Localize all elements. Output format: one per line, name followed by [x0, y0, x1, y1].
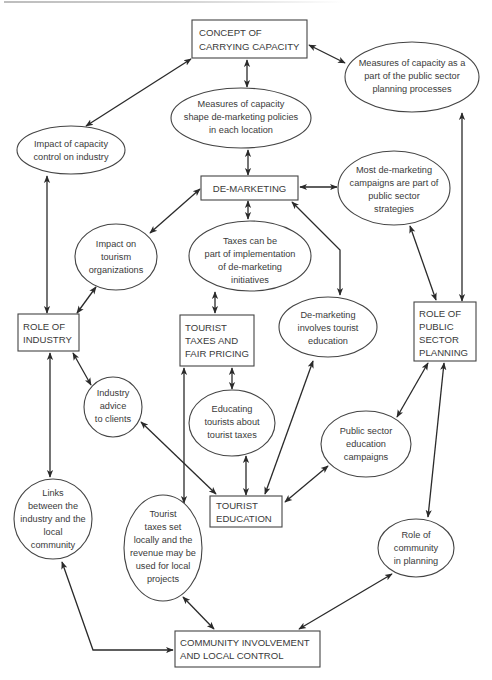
edge-role-industry-industry-advice [73, 353, 91, 385]
svg-text:shape de-marketing policies: shape de-marketing policies [184, 112, 299, 122]
svg-text:planning processes: planning processes [372, 84, 452, 94]
svg-text:SECTOR: SECTOR [419, 334, 459, 345]
svg-text:COMMUNITY INVOLVEMENT: COMMUNITY INVOLVEMENT [180, 637, 310, 648]
edge-role-public-public-education [397, 363, 428, 417]
svg-text:AND LOCAL CONTROL: AND LOCAL CONTROL [180, 650, 284, 661]
edge-role-public-role-community [428, 363, 444, 517]
svg-text:public sector: public sector [368, 191, 420, 201]
svg-text:in each location: in each location [209, 125, 273, 135]
svg-text:FAIR PRICING: FAIR PRICING [185, 348, 249, 359]
svg-text:PLANNING: PLANNING [419, 347, 468, 358]
svg-text:Measures of capacity: Measures of capacity [198, 99, 285, 109]
node-links-industry-community: Links between the industry and the local… [14, 479, 92, 559]
edge-taxes-locally-community [183, 597, 214, 629]
svg-text:Educating: Educating [212, 404, 253, 414]
svg-text:Links: Links [42, 488, 64, 498]
node-impact-capacity-control: Impact of capacity control on industry [17, 126, 125, 174]
svg-text:CONCEPT OF: CONCEPT OF [199, 27, 262, 38]
svg-text:in planning: in planning [394, 556, 438, 566]
svg-text:Tourist: Tourist [149, 509, 177, 519]
svg-text:part of implementation: part of implementation [205, 249, 296, 259]
node-demarketing-involves-education: De-marketing involves tourist education [279, 297, 377, 357]
svg-text:INDUSTRY: INDUSTRY [23, 334, 72, 345]
node-measures-capacity-shape-demarketing: Measures of capacity shape de-marketing … [171, 88, 311, 148]
node-tourist-education: TOURIST EDUCATION [210, 496, 282, 527]
node-tourist-taxes-fair-pricing: TOURIST TAXES AND FAIR PRICING [180, 315, 254, 366]
node-role-of-community-planning: Role of community in planning [378, 519, 454, 577]
svg-text:industry and the: industry and the [20, 514, 85, 524]
svg-text:CARRYING CAPACITY: CARRYING CAPACITY [199, 41, 300, 52]
edge-public-education-tourist-education [285, 466, 328, 502]
node-most-demarketing-campaigns: Most de-marketing campaigns are part of … [338, 151, 450, 225]
node-tourist-taxes-set-locally: Tourist taxes set locally and the revenu… [124, 495, 202, 601]
svg-text:tourist taxes: tourist taxes [207, 430, 257, 440]
svg-text:education: education [346, 439, 386, 449]
svg-text:community: community [31, 540, 76, 550]
node-role-of-public-sector-planning: ROLE OF PUBLIC SECTOR PLANNING [414, 302, 476, 361]
svg-text:Most de-marketing: Most de-marketing [356, 165, 432, 175]
svg-text:tourists about: tourists about [204, 417, 260, 427]
svg-text:DE-MARKETING: DE-MARKETING [213, 183, 287, 194]
svg-text:education: education [308, 336, 348, 346]
svg-text:initiatives: initiatives [231, 275, 269, 285]
svg-text:taxes set: taxes set [145, 522, 182, 532]
svg-text:to clients: to clients [95, 414, 132, 424]
svg-text:control on industry: control on industry [33, 152, 108, 162]
node-measures-capacity-public-sector: Measures of capacity as a part of the pu… [345, 42, 479, 112]
svg-text:TOURIST: TOURIST [216, 500, 258, 511]
svg-text:Public sector: Public sector [340, 426, 393, 436]
edge-impact-tourism-role-industry [77, 287, 96, 313]
node-role-of-industry: ROLE OF INDUSTRY [18, 314, 79, 351]
svg-text:campaigns are part of: campaigns are part of [350, 178, 439, 188]
node-de-marketing: DE-MARKETING [201, 176, 298, 200]
node-concept-of-carrying-capacity: CONCEPT OF CARRYING CAPACITY [192, 20, 307, 58]
svg-text:local: local [44, 527, 63, 537]
node-impact-tourism-organizations: Impact on tourism organizations [75, 224, 157, 290]
svg-text:TOURIST: TOURIST [185, 322, 227, 333]
svg-text:tourism: tourism [101, 252, 131, 262]
svg-text:part of the public sector: part of the public sector [364, 71, 460, 81]
svg-text:TAXES AND: TAXES AND [185, 335, 238, 346]
node-community-involvement-local-control: COMMUNITY INVOLVEMENT AND LOCAL CONTROL [175, 631, 320, 667]
svg-text:locally and the: locally and the [134, 535, 193, 545]
svg-text:involves tourist: involves tourist [298, 323, 359, 333]
svg-text:community: community [394, 543, 439, 553]
svg-text:ROLE OF: ROLE OF [23, 321, 65, 332]
node-industry-advice-clients: Industry advice to clients [84, 377, 142, 437]
concept-map-diagram: CONCEPT OF CARRYING CAPACITY Measures of… [0, 0, 492, 680]
svg-text:strategies: strategies [374, 204, 414, 214]
svg-text:projects: projects [147, 574, 180, 584]
svg-text:Impact on: Impact on [96, 239, 136, 249]
svg-text:between the: between the [28, 501, 78, 511]
node-taxes-part-implementation: Taxes can be part of implementation of d… [189, 221, 311, 291]
svg-text:Measures of capacity as a: Measures of capacity as a [359, 58, 467, 68]
edge-demarketing-impact-tourism [150, 189, 200, 233]
svg-text:used for local: used for local [136, 561, 191, 571]
svg-text:Taxes can be: Taxes can be [223, 236, 277, 246]
edge-most-campaigns-role-public [410, 226, 436, 300]
svg-text:organizations: organizations [89, 265, 144, 275]
svg-text:EDUCATION: EDUCATION [216, 513, 272, 524]
svg-text:De-marketing: De-marketing [300, 310, 355, 320]
svg-text:Industry: Industry [97, 388, 130, 398]
svg-text:Impact of capacity: Impact of capacity [34, 139, 108, 149]
node-public-sector-education-campaigns: Public sector education campaigns [321, 411, 411, 477]
svg-text:revenue may be: revenue may be [130, 548, 196, 558]
svg-text:PUBLIC: PUBLIC [419, 321, 454, 332]
svg-text:advice: advice [100, 401, 127, 411]
edge-role-community-community [299, 574, 392, 629]
svg-text:ROLE OF: ROLE OF [419, 308, 461, 319]
svg-text:Role of: Role of [401, 530, 431, 540]
node-educating-tourists-taxes: Educating tourists about tourist taxes [189, 390, 275, 456]
svg-text:campaigns: campaigns [344, 452, 389, 462]
edge-concept-measures-public [309, 45, 345, 63]
svg-text:of de-marketing: of de-marketing [218, 262, 282, 272]
